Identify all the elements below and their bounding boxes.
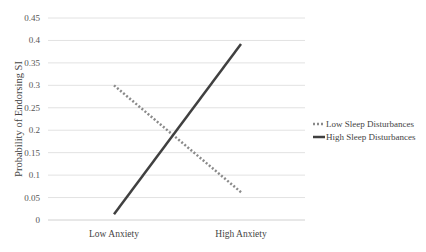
y-tick-label: 0.35 (24, 58, 40, 68)
y-tick-label: 0.25 (24, 103, 40, 113)
y-tick-label: 0.1 (29, 170, 40, 180)
series-line-high-sleep-disturbances (114, 44, 241, 214)
x-tick-label: Low Anxiety (89, 229, 139, 239)
x-axis-ticks: Low AnxietyHigh Anxiety (89, 229, 267, 239)
data-lines (114, 44, 241, 214)
y-axis-ticks: 00.050.10.150.20.250.30.350.40.45 (24, 13, 40, 225)
y-tick-label: 0.15 (24, 148, 40, 158)
legend: Low Sleep DisturbancesHigh Sleep Disturb… (313, 119, 416, 142)
y-tick-label: 0.4 (29, 35, 41, 45)
legend-label: Low Sleep Disturbances (326, 119, 414, 129)
y-tick-label: 0.05 (24, 193, 40, 203)
series-line-low-sleep-disturbances (114, 85, 241, 192)
y-axis-label: Probability of Endorsing SI (13, 61, 24, 177)
y-tick-label: 0.45 (24, 13, 40, 23)
y-tick-label: 0.2 (29, 125, 40, 135)
line-chart: 00.050.10.150.20.250.30.350.40.45 Probab… (0, 0, 426, 252)
legend-label: High Sleep Disturbances (326, 132, 416, 142)
gridlines (48, 18, 305, 220)
x-tick-label: High Anxiety (215, 229, 267, 239)
y-tick-label: 0.3 (29, 80, 41, 90)
y-tick-label: 0 (36, 215, 41, 225)
